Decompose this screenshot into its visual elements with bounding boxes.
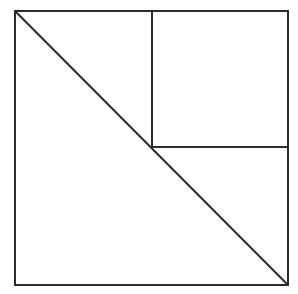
inner-square [152, 11, 288, 147]
geometry-diagram [0, 0, 298, 294]
